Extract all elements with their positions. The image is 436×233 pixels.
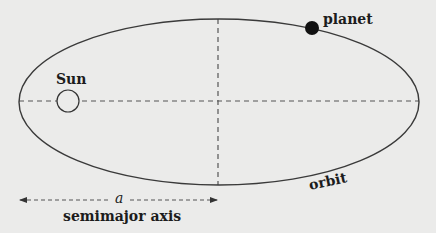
planet-label: planet <box>323 12 373 26</box>
diagram-canvas <box>0 0 436 233</box>
planet-icon <box>305 21 319 35</box>
semimajor-caption: semimajor axis <box>63 209 181 223</box>
sun-label: Sun <box>56 72 86 86</box>
orbit-diagram: Sun planet orbit a semimajor axis <box>0 0 436 233</box>
semimajor-symbol: a <box>115 191 123 205</box>
sun-icon <box>57 90 79 112</box>
